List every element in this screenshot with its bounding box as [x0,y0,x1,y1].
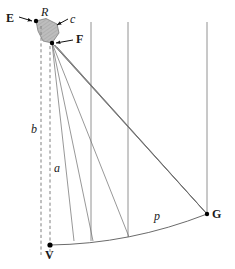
ray-2 [52,43,93,241]
ray-7 [57,47,207,214]
label-V: V [45,249,54,261]
label-G: G [212,208,221,220]
shaded-region [36,19,59,44]
arrow-to-R [19,17,32,21]
dashed-axes [41,26,50,258]
ray-1 [52,43,74,241]
point-V [47,242,52,247]
label-p: p [154,210,160,222]
vertical-reference-lines [91,22,207,241]
arrow-to-c [57,19,68,25]
curve-p [50,214,207,245]
label-c: c [70,13,75,25]
figure-canvas: E R c F b a p G V [0,0,235,269]
label-E: E [6,12,14,24]
point-markers [34,19,209,248]
ray-fan-from-F [52,43,207,241]
arrow-to-F [56,40,73,43]
label-R: R [41,6,48,18]
ray-3 [52,43,129,237]
label-F: F [76,33,83,45]
label-b: b [31,123,37,135]
point-R [34,19,38,23]
label-a: a [54,162,60,174]
point-G [205,212,209,216]
point-F [50,41,54,45]
